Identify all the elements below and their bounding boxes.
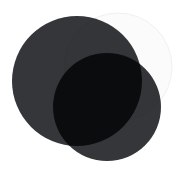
venn-diagram-figure [0, 0, 183, 172]
venn-circle-bottom [53, 53, 161, 161]
venn-diagram-canvas [0, 0, 183, 172]
